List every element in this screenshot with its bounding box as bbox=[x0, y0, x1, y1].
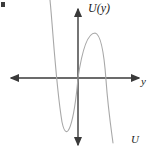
horizontal-axis-label: y bbox=[141, 76, 146, 87]
potential-energy-figure: U(y) y U bbox=[0, 0, 154, 156]
vertical-axis-label: U(y) bbox=[88, 2, 110, 14]
potential-curve bbox=[50, 0, 113, 143]
curve-label: U bbox=[131, 134, 139, 145]
